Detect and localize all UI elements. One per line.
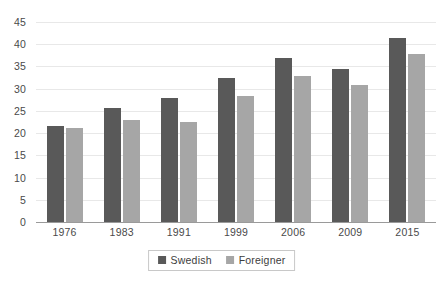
bar (47, 126, 64, 222)
y-axis-tick-label: 40 (14, 38, 26, 50)
bar (161, 98, 178, 222)
legend-label: Foreigner (239, 254, 286, 266)
chart-legend: SwedishForeigner (148, 250, 296, 271)
bar (66, 128, 83, 222)
bars-layer (36, 22, 436, 222)
y-axis-tick-label: 30 (14, 83, 26, 95)
legend-item[interactable]: Swedish (158, 254, 212, 266)
y-axis-tick-label: 45 (14, 16, 26, 28)
legend-label: Swedish (171, 254, 212, 266)
x-axis-line (36, 222, 436, 223)
bar (351, 85, 368, 222)
x-axis-tick-label: 2015 (395, 226, 419, 238)
x-axis-tick-label: 2006 (281, 226, 305, 238)
x-axis-tick-label: 1999 (224, 226, 248, 238)
bar-chart: 051015202530354045 197619831991199920062… (0, 0, 443, 283)
bar (237, 96, 254, 222)
legend-swatch-icon (226, 256, 234, 264)
y-axis-tick-label: 20 (14, 127, 26, 139)
bar (294, 76, 311, 222)
bar (275, 58, 292, 222)
x-axis: 1976198319911999200620092015 (36, 226, 436, 244)
x-axis-tick-label: 2009 (338, 226, 362, 238)
x-axis-tick-label: 1983 (110, 226, 134, 238)
bar (218, 78, 235, 222)
y-axis-tick-label: 10 (14, 172, 26, 184)
y-axis: 051015202530354045 (0, 22, 30, 222)
y-axis-tick-label: 15 (14, 149, 26, 161)
y-axis-tick-label: 35 (14, 60, 26, 72)
y-axis-tick-label: 5 (20, 194, 26, 206)
bar (180, 122, 197, 222)
y-axis-tick-label: 0 (20, 216, 26, 228)
bar (332, 69, 349, 222)
legend-swatch-icon (158, 256, 166, 264)
legend-item[interactable]: Foreigner (226, 254, 286, 266)
x-axis-tick-label: 1991 (167, 226, 191, 238)
bar (104, 108, 121, 222)
bar (123, 120, 140, 222)
bar (408, 54, 425, 222)
y-axis-tick-label: 25 (14, 105, 26, 117)
bar (389, 38, 406, 222)
x-axis-tick-label: 1976 (52, 226, 76, 238)
